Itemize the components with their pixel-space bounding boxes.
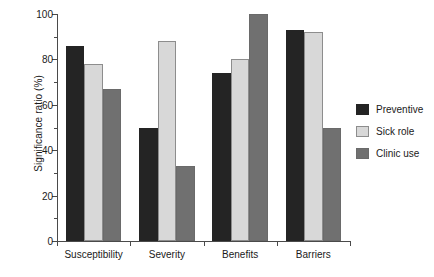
bar-susceptibility-sick-role (84, 64, 103, 241)
x-axis-tick (204, 241, 205, 246)
x-axis-category-label: Benefits (222, 249, 258, 260)
y-axis-minor-tick (54, 173, 57, 174)
bar-barriers-sick-role (304, 32, 323, 241)
y-axis-tick-label: 100 (36, 9, 53, 20)
y-axis-tick-label: 20 (42, 190, 53, 201)
x-axis-tick (130, 241, 131, 246)
x-axis-category-label: Severity (149, 249, 185, 260)
legend-item-sick-role: Sick role (356, 120, 423, 142)
legend-label: Preventive (376, 104, 423, 115)
legend-swatch-icon (356, 104, 369, 115)
y-axis-tick-label: 60 (42, 99, 53, 110)
legend-item-clinic-use: Clinic use (356, 142, 423, 164)
bar-benefits-preventive (212, 73, 231, 241)
y-axis-minor-tick (54, 37, 57, 38)
y-axis-tick-label: 80 (42, 54, 53, 65)
x-axis-tick (57, 241, 58, 246)
legend-swatch-icon (356, 126, 369, 137)
bar-benefits-clinic-use (249, 14, 268, 241)
bar-susceptibility-clinic-use (103, 89, 122, 241)
legend-swatch-icon (356, 148, 369, 159)
y-axis-tick-label: 0 (47, 236, 53, 247)
x-axis-tick (277, 241, 278, 246)
bar-severity-clinic-use (176, 166, 195, 241)
y-axis-minor-tick (54, 128, 57, 129)
chart-legend: PreventiveSick roleClinic use (356, 98, 423, 164)
bar-susceptibility-preventive (66, 46, 85, 241)
x-axis-category-label: Barriers (296, 249, 331, 260)
legend-label: Sick role (376, 126, 414, 137)
legend-label: Clinic use (376, 148, 419, 159)
bar-severity-preventive (139, 128, 158, 242)
x-axis-tick (350, 241, 351, 246)
bar-chart-figure: Significance ratio (%) 020406080100 Susc… (0, 0, 434, 277)
bar-barriers-clinic-use (323, 128, 342, 242)
bar-severity-sick-role (158, 41, 177, 241)
x-axis-category-label: Susceptibility (64, 249, 122, 260)
bar-benefits-sick-role (231, 59, 250, 241)
y-axis-tick-label: 40 (42, 145, 53, 156)
legend-item-preventive: Preventive (356, 98, 423, 120)
y-axis-minor-tick (54, 82, 57, 83)
bar-barriers-preventive (286, 30, 305, 241)
y-axis-minor-tick (54, 218, 57, 219)
